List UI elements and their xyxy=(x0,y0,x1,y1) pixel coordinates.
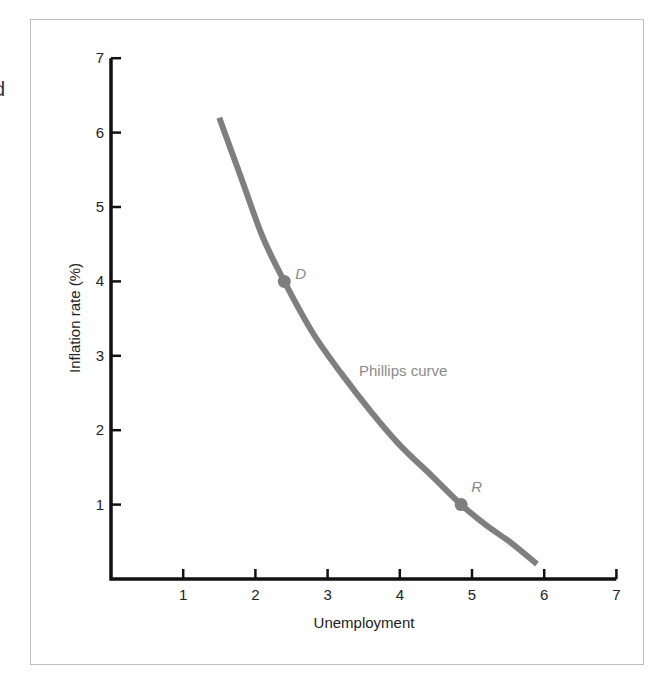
x-tick-label: 7 xyxy=(612,586,620,603)
axis-lines xyxy=(111,58,616,579)
y-axis-label: Inflation rate (%) xyxy=(66,263,83,373)
point-d-marker xyxy=(278,275,291,288)
x-tick-label: 2 xyxy=(251,586,259,603)
x-tick-label: 6 xyxy=(540,586,548,603)
y-tick-label: 5 xyxy=(96,198,104,215)
curve-points: DR xyxy=(278,265,482,511)
x-tick-label: 4 xyxy=(396,586,404,603)
y-tick-label: 3 xyxy=(96,347,104,364)
phillips-curve-line xyxy=(219,118,537,564)
y-tick-label: 6 xyxy=(96,124,104,141)
y-tick-label: 7 xyxy=(96,49,104,66)
y-tick-label: 2 xyxy=(96,421,104,438)
x-axis-label: Unemployment xyxy=(314,614,416,631)
x-tick-label: 3 xyxy=(323,586,331,603)
y-axis-ticks: 1234567 xyxy=(96,49,121,512)
y-tick-label: 4 xyxy=(96,272,104,289)
axes xyxy=(111,58,616,579)
x-axis-ticks: 1234567 xyxy=(179,569,621,603)
phillips-curve-chart: 1234567 1234567 DR Phillips curve Unempl… xyxy=(0,0,665,691)
point-r-marker xyxy=(455,498,468,511)
point-r-label: R xyxy=(471,478,482,495)
phillips-curve-label: Phillips curve xyxy=(359,362,447,379)
x-tick-label: 5 xyxy=(468,586,476,603)
point-d-label: D xyxy=(295,265,306,282)
x-tick-label: 1 xyxy=(179,586,187,603)
y-tick-label: 1 xyxy=(96,496,104,513)
